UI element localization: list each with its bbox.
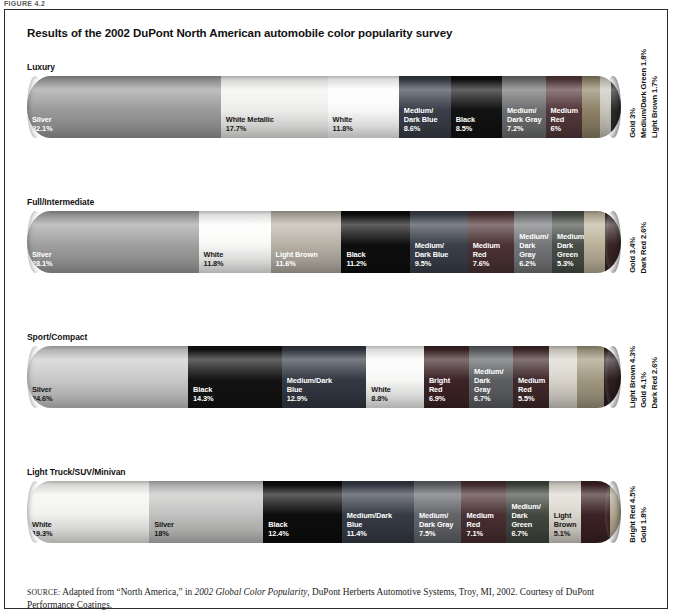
segment-label: Light Brown 11.6% bbox=[276, 250, 340, 268]
source-italic-title: 2002 Global Color Popularity bbox=[194, 587, 307, 597]
bar-segment[interactable]: Silver 28.1% bbox=[27, 211, 199, 273]
figure-label: FIGURE 4.2 bbox=[4, 0, 45, 7]
segment-label: White 8.8% bbox=[371, 385, 422, 403]
bar-segment[interactable]: Medium/ Dark Green 5.3% bbox=[552, 211, 584, 273]
bar-segment[interactable]: Medium/ Dark Gray 6.7% bbox=[469, 346, 513, 408]
bar-segment[interactable]: White 11.8% bbox=[328, 76, 399, 138]
bar-segment[interactable] bbox=[600, 76, 611, 138]
stacked-bar: Silver 32.1%White Metallic 17.7%White 11… bbox=[27, 76, 621, 138]
segment-fill bbox=[582, 76, 600, 138]
bar-segment[interactable] bbox=[584, 211, 605, 273]
segment-fill bbox=[611, 76, 621, 138]
bar-segment[interactable]: Bright Red 6.9% bbox=[424, 346, 469, 408]
side-labels: Gold 3%Medium/Dark Green 1.8%Light Brown… bbox=[627, 76, 660, 138]
bar-segment[interactable]: Medium/Dark Blue 12.9% bbox=[282, 346, 366, 408]
segment-label: Silver 32.1% bbox=[32, 115, 219, 133]
side-label: Gold 3.4% bbox=[628, 237, 638, 273]
segment-fill bbox=[605, 211, 621, 273]
bar-segment[interactable]: Black 11.2% bbox=[341, 211, 409, 273]
bar-segment[interactable]: Black 12.4% bbox=[263, 481, 342, 543]
source-prefix: SOURCE: bbox=[27, 588, 60, 597]
bar-track: Silver 32.1%White Metallic 17.7%White 11… bbox=[27, 76, 621, 138]
segment-label: Black 8.5% bbox=[456, 115, 500, 133]
bar-segment[interactable]: Medium/ Dark Gray 7.5% bbox=[414, 481, 462, 543]
side-labels: Bright Red 4.5%Gold 1.8% bbox=[627, 481, 649, 543]
bar-segment[interactable] bbox=[549, 346, 577, 408]
segment-label: Black 14.3% bbox=[193, 385, 280, 403]
bar-segment[interactable]: Black 14.3% bbox=[188, 346, 282, 408]
bar-segment[interactable]: Medium/ Dark Gray 7.2% bbox=[502, 76, 545, 138]
segment-label: Medium/ Dark Gray 6.2% bbox=[519, 232, 550, 268]
segment-label: Medium Red 7.6% bbox=[473, 241, 512, 268]
bar-segment[interactable]: White 11.8% bbox=[199, 211, 271, 273]
source-note: SOURCE: Adapted from “North America,” in… bbox=[27, 586, 635, 611]
bar-segment[interactable]: Medium/Dark Blue 11.4% bbox=[342, 481, 414, 543]
bar-track: Silver 24.6%Black 14.3%Medium/Dark Blue … bbox=[27, 346, 621, 408]
segment-fill bbox=[604, 346, 621, 408]
group-label: Full/Intermediate bbox=[27, 197, 94, 207]
segment-label: White 19.3% bbox=[32, 520, 147, 538]
bar-segment[interactable] bbox=[582, 76, 600, 138]
side-label: Gold 3% bbox=[628, 108, 638, 138]
bar-segment[interactable]: Medium/ Dark Blue 8.6% bbox=[399, 76, 451, 138]
bar-segment[interactable]: Medium/ Dark Green 6.7% bbox=[506, 481, 548, 543]
bar-segment[interactable]: Silver 24.6% bbox=[27, 346, 188, 408]
segment-label: Medium Red 5.5% bbox=[518, 376, 547, 403]
bar-segment[interactable]: Light Brown 5.1% bbox=[549, 481, 581, 543]
bar-segment[interactable] bbox=[577, 346, 604, 408]
bar-segment[interactable]: Medium Red 5.5% bbox=[513, 346, 549, 408]
side-labels: Light Brown 4.3%Gold 4.1%Dark Red 2.6% bbox=[627, 346, 660, 408]
bar-segment[interactable]: White Metallic 17.7% bbox=[221, 76, 328, 138]
bar-segment[interactable] bbox=[581, 481, 610, 543]
segment-label: Silver 24.6% bbox=[32, 385, 186, 403]
bar-segment[interactable] bbox=[610, 481, 621, 543]
segment-fill bbox=[610, 481, 621, 543]
segment-label: Medium/ Dark Blue 9.5% bbox=[415, 241, 466, 268]
segment-fill bbox=[600, 76, 611, 138]
segment-label: Black 12.4% bbox=[268, 520, 340, 538]
bar-segment[interactable]: Medium Red 7.1% bbox=[461, 481, 506, 543]
bar-segment[interactable]: Medium Red 7.6% bbox=[468, 211, 514, 273]
segment-fill bbox=[584, 211, 605, 273]
stacked-bar: White 19.3%Silver 18%Black 12.4%Medium/D… bbox=[27, 481, 621, 543]
stacked-bar: Silver 24.6%Black 14.3%Medium/Dark Blue … bbox=[27, 346, 621, 408]
segment-label: Silver 18% bbox=[154, 520, 261, 538]
bar-segment[interactable]: Light Brown 11.6% bbox=[271, 211, 342, 273]
segment-label: Black 11.2% bbox=[346, 250, 407, 268]
segment-label: Medium/ Dark Gray 7.2% bbox=[507, 106, 543, 133]
segment-label: Medium/ Dark Gray 7.5% bbox=[419, 511, 460, 538]
side-label: Dark Red 2.6% bbox=[639, 222, 649, 273]
segment-label: Light Brown 5.1% bbox=[554, 511, 579, 538]
segment-label: Medium/ Dark Blue 8.6% bbox=[404, 106, 449, 133]
side-label: Light Brown 4.3% bbox=[628, 346, 638, 408]
page-title: Results of the 2002 DuPont North America… bbox=[27, 27, 452, 39]
side-label: Medium/Dark Green 1.8% bbox=[639, 49, 649, 138]
bar-track: White 19.3%Silver 18%Black 12.4%Medium/D… bbox=[27, 481, 621, 543]
group-label: Luxury bbox=[27, 62, 55, 72]
bar-segment[interactable] bbox=[611, 76, 621, 138]
side-label: Dark Red 2.6% bbox=[650, 357, 660, 408]
segment-label: White 11.8% bbox=[333, 115, 397, 133]
bar-segment[interactable]: White 19.3% bbox=[27, 481, 149, 543]
side-label: Gold 4.1% bbox=[639, 372, 649, 408]
segment-label: Medium/Dark Blue 11.4% bbox=[347, 511, 412, 538]
bar-segment[interactable]: Silver 18% bbox=[149, 481, 263, 543]
segment-label: Medium Red 7.1% bbox=[466, 511, 504, 538]
segment-label: Medium/ Dark Green 5.3% bbox=[557, 232, 582, 268]
stacked-bar: Silver 28.1%White 11.8%Light Brown 11.6%… bbox=[27, 211, 621, 273]
side-labels: Gold 3.4%Dark Red 2.6% bbox=[627, 211, 649, 273]
segment-label: Bright Red 6.9% bbox=[429, 376, 467, 403]
bar-segment[interactable]: Medium Red 6% bbox=[546, 76, 582, 138]
bar-track: Silver 28.1%White 11.8%Light Brown 11.6%… bbox=[27, 211, 621, 273]
bar-segment[interactable]: Silver 32.1% bbox=[27, 76, 221, 138]
bar-segment[interactable] bbox=[605, 211, 621, 273]
segment-label: White 11.8% bbox=[204, 250, 269, 268]
segment-fill bbox=[549, 346, 577, 408]
bar-segment[interactable]: Medium/ Dark Blue 9.5% bbox=[410, 211, 468, 273]
group-label: Light Truck/SUV/Minivan bbox=[27, 467, 126, 477]
bar-segment[interactable]: Medium/ Dark Gray 6.2% bbox=[514, 211, 552, 273]
bar-segment[interactable]: Black 8.5% bbox=[451, 76, 502, 138]
segment-label: Medium Red 6% bbox=[551, 106, 580, 133]
bar-segment[interactable]: White 8.8% bbox=[366, 346, 424, 408]
bar-segment[interactable] bbox=[604, 346, 621, 408]
